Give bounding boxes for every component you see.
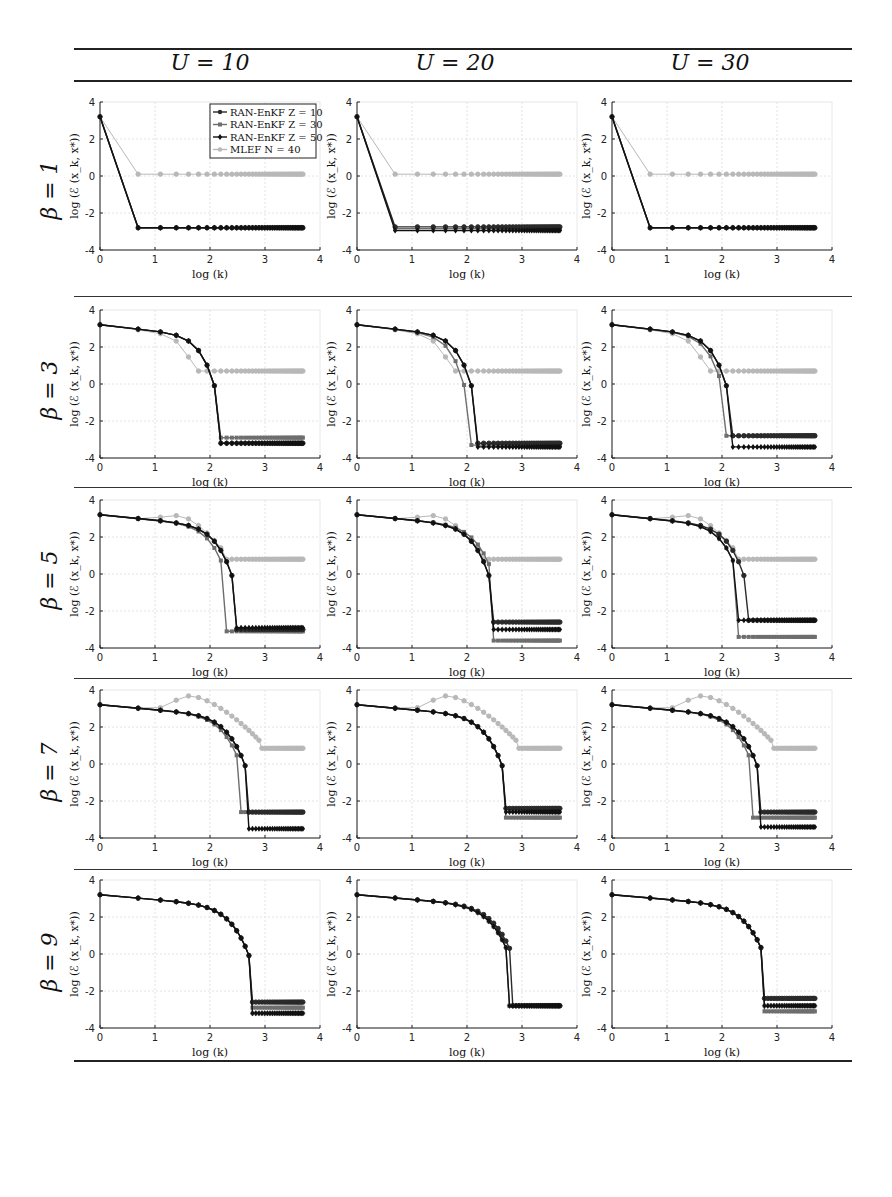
svg-text:log (ℰ (x_k, x*)): log (ℰ (x_k, x*)): [68, 531, 81, 616]
svg-text:3: 3: [774, 462, 780, 473]
svg-text:2: 2: [601, 722, 607, 733]
svg-text:4: 4: [829, 462, 835, 473]
svg-text:0: 0: [601, 569, 607, 580]
svg-text:log (ℰ (x_k, x*)): log (ℰ (x_k, x*)): [580, 341, 593, 426]
svg-text:-4: -4: [597, 453, 607, 464]
svg-text:2: 2: [346, 722, 352, 733]
svg-text:0: 0: [89, 171, 95, 182]
svg-text:log (ℰ (x_k, x*)): log (ℰ (x_k, x*)): [325, 531, 338, 616]
svg-text:2: 2: [464, 1032, 470, 1043]
svg-text:-4: -4: [342, 453, 352, 464]
svg-text:4: 4: [346, 305, 352, 316]
svg-text:-2: -2: [597, 416, 607, 427]
svg-text:RAN-EnKF Z = 50: RAN-EnKF Z = 50: [230, 132, 323, 143]
svg-text:4: 4: [317, 842, 323, 853]
svg-text:log (k): log (k): [704, 856, 740, 869]
svg-text:log (ℰ (x_k, x*)): log (ℰ (x_k, x*)): [580, 531, 593, 616]
svg-text:2: 2: [89, 532, 95, 543]
svg-text:1: 1: [409, 842, 415, 853]
svg-text:4: 4: [317, 254, 323, 265]
svg-text:4: 4: [317, 1032, 323, 1043]
svg-text:-4: -4: [597, 1023, 607, 1034]
svg-text:log (k): log (k): [192, 476, 228, 489]
svg-text:log (ℰ (x_k, x*)): log (ℰ (x_k, x*)): [325, 721, 338, 806]
svg-text:2: 2: [207, 1032, 213, 1043]
svg-text:RAN-EnKF Z = 10: RAN-EnKF Z = 10: [230, 107, 323, 118]
svg-text:1: 1: [409, 1032, 415, 1043]
svg-text:-4: -4: [85, 833, 95, 844]
svg-text:0: 0: [601, 171, 607, 182]
svg-text:3: 3: [519, 462, 525, 473]
svg-text:-2: -2: [597, 796, 607, 807]
svg-text:2: 2: [719, 652, 725, 663]
svg-text:2: 2: [207, 462, 213, 473]
svg-text:log (ℰ (x_k, x*)): log (ℰ (x_k, x*)): [325, 911, 338, 996]
svg-text:0: 0: [346, 759, 352, 770]
svg-text:-2: -2: [342, 986, 352, 997]
svg-text:0: 0: [609, 1032, 615, 1043]
line-chart-r2-c3: 01234420-2-4log (k)log (ℰ (x_k, x*)): [580, 300, 850, 500]
svg-text:4: 4: [829, 652, 835, 663]
svg-text:1: 1: [409, 652, 415, 663]
svg-text:-2: -2: [85, 208, 95, 219]
svg-text:-4: -4: [85, 453, 95, 464]
svg-text:4: 4: [89, 495, 95, 506]
svg-text:2: 2: [89, 342, 95, 353]
svg-text:0: 0: [97, 254, 103, 265]
svg-text:-4: -4: [342, 643, 352, 654]
svg-text:1: 1: [152, 652, 158, 663]
line-chart-r1-c3: 01234420-2-4log (k)log (ℰ (x_k, x*)): [580, 92, 850, 292]
header-bottom-rule: [74, 80, 852, 82]
svg-text:0: 0: [601, 759, 607, 770]
column-header-u20: U = 20: [355, 50, 555, 75]
svg-text:0: 0: [354, 1032, 360, 1043]
svg-text:1: 1: [152, 842, 158, 853]
row-label-beta-7: β = 7: [30, 732, 70, 812]
svg-text:-2: -2: [85, 416, 95, 427]
row-label-beta-1: β = 1: [30, 150, 70, 230]
svg-text:2: 2: [207, 254, 213, 265]
svg-text:3: 3: [519, 1032, 525, 1043]
svg-text:log (ℰ (x_k, x*)): log (ℰ (x_k, x*)): [325, 133, 338, 218]
line-chart-r5-c2: 01234420-2-4log (k)log (ℰ (x_k, x*)): [325, 870, 595, 1070]
svg-text:-2: -2: [342, 416, 352, 427]
svg-text:3: 3: [519, 254, 525, 265]
svg-text:2: 2: [464, 462, 470, 473]
line-chart-r4-c1: 01234420-2-4log (k)log (ℰ (x_k, x*)): [68, 680, 338, 880]
svg-text:-4: -4: [85, 245, 95, 256]
svg-text:-4: -4: [342, 1023, 352, 1034]
svg-text:log (ℰ (x_k, x*)): log (ℰ (x_k, x*)): [68, 721, 81, 806]
svg-text:-2: -2: [342, 796, 352, 807]
svg-text:log (ℰ (x_k, x*)): log (ℰ (x_k, x*)): [68, 133, 81, 218]
svg-text:1: 1: [664, 842, 670, 853]
svg-text:4: 4: [346, 495, 352, 506]
row-divider-1: [74, 296, 852, 297]
line-chart-r4-c2: 01234420-2-4log (k)log (ℰ (x_k, x*)): [325, 680, 595, 880]
svg-text:log (ℰ (x_k, x*)): log (ℰ (x_k, x*)): [68, 341, 81, 426]
svg-text:0: 0: [609, 652, 615, 663]
svg-text:2: 2: [346, 134, 352, 145]
svg-text:4: 4: [89, 305, 95, 316]
chart-legend: RAN-EnKF Z = 10RAN-EnKF Z = 30RAN-EnKF Z…: [210, 104, 323, 158]
svg-text:-4: -4: [85, 1023, 95, 1034]
svg-text:1: 1: [664, 652, 670, 663]
svg-text:2: 2: [601, 912, 607, 923]
svg-text:2: 2: [346, 342, 352, 353]
svg-text:2: 2: [346, 912, 352, 923]
svg-text:1: 1: [409, 254, 415, 265]
svg-text:0: 0: [97, 462, 103, 473]
svg-text:1: 1: [152, 254, 158, 265]
svg-text:1: 1: [664, 462, 670, 473]
svg-text:3: 3: [774, 254, 780, 265]
svg-text:2: 2: [89, 722, 95, 733]
svg-text:log (ℰ (x_k, x*)): log (ℰ (x_k, x*)): [68, 911, 81, 996]
svg-text:0: 0: [609, 462, 615, 473]
row-label-beta-3: β = 3: [30, 350, 70, 430]
svg-text:-2: -2: [597, 208, 607, 219]
svg-text:2: 2: [207, 652, 213, 663]
svg-text:0: 0: [346, 379, 352, 390]
svg-text:0: 0: [89, 569, 95, 580]
line-chart-r3-c2: 01234420-2-4log (k)log (ℰ (x_k, x*)): [325, 490, 595, 690]
svg-text:4: 4: [317, 652, 323, 663]
svg-text:1: 1: [152, 1032, 158, 1043]
